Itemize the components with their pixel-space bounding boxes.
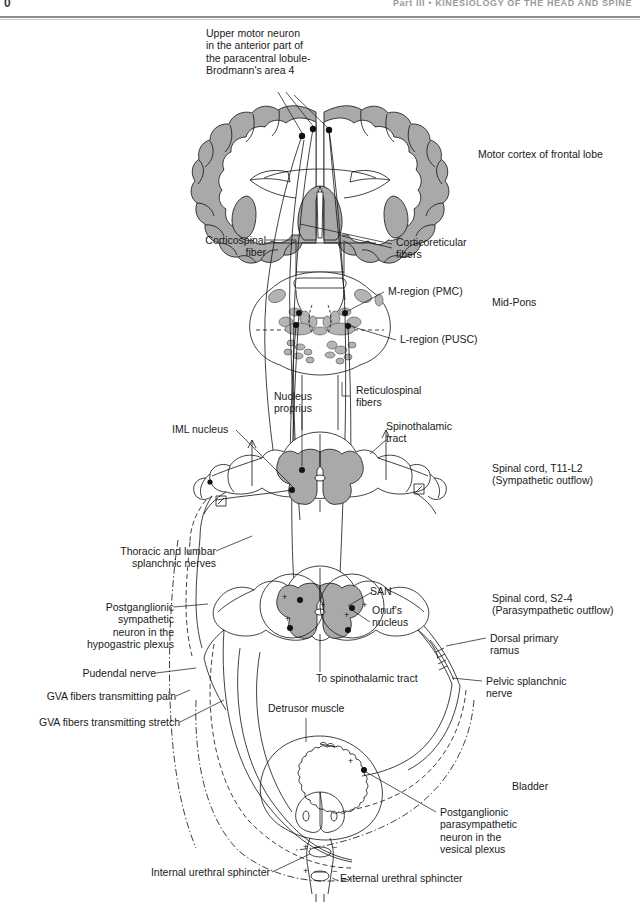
label-motor-cortex: Motor cortex of frontal lobe xyxy=(478,148,603,160)
label-internal-urethral-sphincter: Internal urethral sphincter xyxy=(120,866,270,878)
sign-plus-sacral-5: + xyxy=(362,600,367,610)
label-corticoreticular-fibers: Corticoreticular fibers xyxy=(396,236,467,261)
sign-plus-sacral-2: + xyxy=(285,614,290,624)
figure-page: 0 Part III • KINESIOLOGY OF THE HEAD AND… xyxy=(0,0,640,914)
label-dorsal-primary-ramus: Dorsal primary ramus xyxy=(490,632,558,657)
sign-plus-ius: + xyxy=(303,842,308,852)
label-detrusor-muscle: Detrusor muscle xyxy=(268,702,344,714)
label-spinal-cord-s2-4: Spinal cord, S2-4 (Parasympathetic outfl… xyxy=(492,592,613,617)
sign-minus-eus: − xyxy=(332,866,337,876)
pons-cross-section xyxy=(250,272,391,375)
label-corticospinal-fiber: Corticospinal fiber xyxy=(178,234,266,259)
label-mid-pons: Mid-Pons xyxy=(492,296,536,308)
nucleus-proprius-neuron xyxy=(299,467,305,473)
sacral-neuron-lower-right xyxy=(345,627,351,633)
sympathetic-ganglion-neuron xyxy=(207,479,212,484)
label-pelvic-splanchnic-nerve: Pelvic splanchnic nerve xyxy=(486,675,567,700)
label-iml-nucleus: IML nucleus xyxy=(172,423,228,435)
label-thoracic-lumbar-splanchnic: Thoracic and lumbar splanchnic nerves xyxy=(68,545,216,570)
label-gva-pain: GVA fibers transmitting pain xyxy=(6,690,176,702)
anatomical-illustration: + + + + + xyxy=(0,0,640,914)
label-to-spinothalamic-tract: To spinothalamic tract xyxy=(316,672,418,684)
sign-plus-detrusor: + xyxy=(348,756,353,766)
label-spinal-cord-t11-l2: Spinal cord, T11-L2 (Sympathetic outflow… xyxy=(492,462,593,487)
sign-minus-ius: − xyxy=(332,842,337,852)
label-nucleus-proprius: Nucleus proprius xyxy=(274,390,312,415)
label-external-urethral-sphincter: External urethral sphincter xyxy=(340,872,463,884)
label-upper-motor-neuron: Upper motor neuron in the anterior part … xyxy=(206,27,310,77)
san-neuron xyxy=(297,597,303,603)
label-onufs-nucleus: Onuf's nucleus xyxy=(372,604,408,629)
label-spinothalamic-tract: Spinothalamic tract xyxy=(386,420,452,445)
label-postganglionic-sympathetic: Postganglionic sympathetic neuron in the… xyxy=(58,601,174,651)
label-pudendal-nerve: Pudendal nerve xyxy=(56,667,156,679)
label-gva-stretch: GVA fibers transmitting stretch xyxy=(0,716,180,728)
sign-plus-sacral-1: + xyxy=(282,592,287,602)
sign-plus-sacral-4: + xyxy=(344,610,349,620)
label-m-region: M-region (PMC) xyxy=(388,285,463,297)
label-reticulospinal-fibers: Reticulospinal fibers xyxy=(356,384,421,409)
label-bladder: Bladder xyxy=(512,780,548,792)
sacral-neuron-lower-left xyxy=(287,625,293,631)
label-l-region: L-region (PUSC) xyxy=(400,333,478,345)
sign-plus-sacral-3: + xyxy=(320,600,325,610)
label-postganglionic-parasympathetic: Postganglionic parasympathetic neuron in… xyxy=(440,806,517,856)
label-san: SAN xyxy=(370,585,392,597)
sign-plus-eus: + xyxy=(303,866,308,876)
